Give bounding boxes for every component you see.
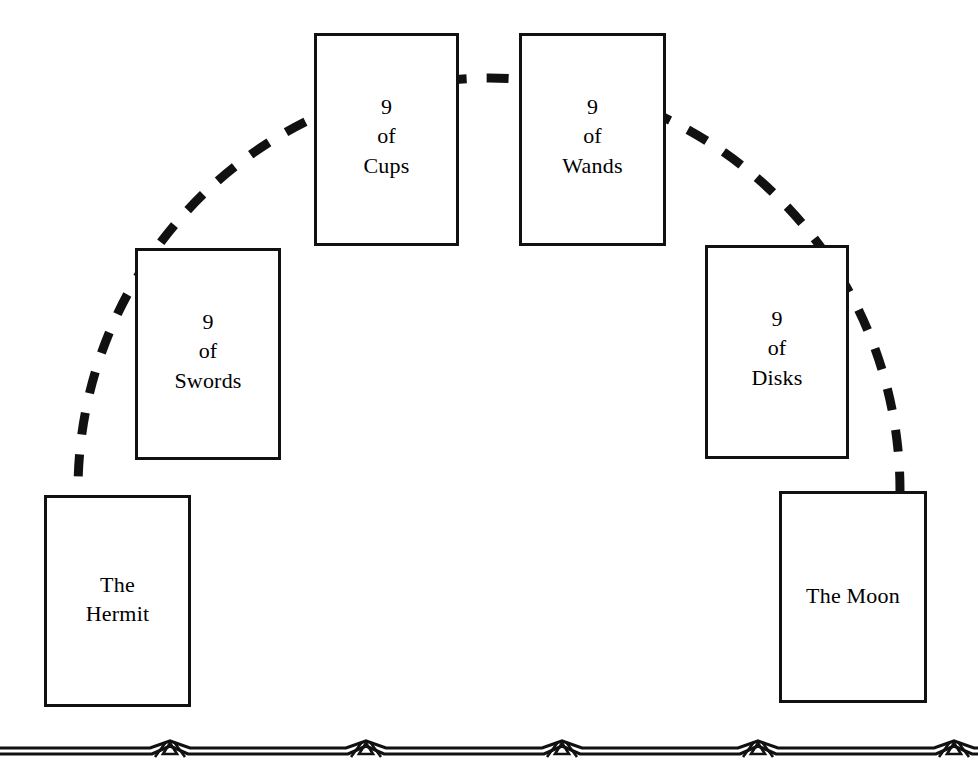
- card-line: of: [708, 333, 846, 362]
- card-label: The Hermit: [47, 498, 188, 629]
- card-label: 9 of Swords: [138, 251, 278, 395]
- ornamental-border: [0, 739, 978, 761]
- card-line: of: [317, 121, 456, 150]
- card-label: The Moon: [782, 494, 924, 610]
- tarot-spread-diagram: The Hermit 9 of Swords 9 of Cups 9 of Wa…: [0, 0, 978, 761]
- card-label: 9 of Wands: [522, 36, 663, 180]
- card-nine-of-swords[interactable]: 9 of Swords: [135, 248, 281, 460]
- card-line: Hermit: [47, 599, 188, 628]
- card-line: of: [522, 121, 663, 150]
- card-label: 9 of Cups: [317, 36, 456, 180]
- card-label: 9 of Disks: [708, 248, 846, 392]
- card-nine-of-wands[interactable]: 9 of Wands: [519, 33, 666, 246]
- card-line: 9: [317, 92, 456, 121]
- card-line: 9: [708, 304, 846, 333]
- card-line: of: [138, 336, 278, 365]
- card-nine-of-disks[interactable]: 9 of Disks: [705, 245, 849, 459]
- card-the-hermit[interactable]: The Hermit: [44, 495, 191, 707]
- card-nine-of-cups[interactable]: 9 of Cups: [314, 33, 459, 246]
- card-line: The: [47, 570, 188, 599]
- card-line: Swords: [138, 366, 278, 395]
- card-line: 9: [138, 307, 278, 336]
- card-line: Disks: [708, 363, 846, 392]
- card-line: Cups: [317, 151, 456, 180]
- card-line: The Moon: [782, 581, 924, 610]
- card-line: Wands: [522, 151, 663, 180]
- card-the-moon[interactable]: The Moon: [779, 491, 927, 703]
- card-line: 9: [522, 92, 663, 121]
